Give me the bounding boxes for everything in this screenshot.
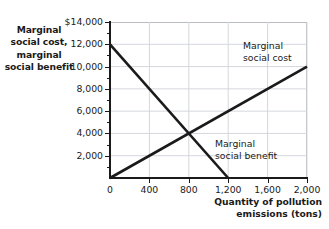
y-tick-minor — [107, 33, 110, 34]
y-tick-minor — [107, 78, 110, 79]
x-axis-title-line-1: Quantity of pollution — [150, 196, 322, 208]
series-line-marginal-social-benefit — [110, 44, 228, 178]
y-tick-label: $14,000 — [65, 17, 103, 26]
x-tick-label: 1,200 — [215, 185, 242, 194]
plot-area: 2,0004,0006,0008,00010,00012,000$14,000 … — [110, 22, 307, 178]
x-tick-label: 0 — [107, 185, 113, 194]
y-tick — [105, 67, 110, 68]
y-tick-minor — [107, 122, 110, 123]
x-tick-label: 2,000 — [294, 185, 321, 194]
y-tick-label: 2,000 — [76, 151, 103, 160]
y-tick — [105, 156, 110, 157]
y-tick-label: 4,000 — [76, 129, 103, 138]
y-axis-title-line-4: social benefit — [0, 61, 78, 73]
x-tick — [228, 178, 229, 183]
y-tick-minor — [107, 55, 110, 56]
y-axis-title: Marginal social cost, marginal social be… — [0, 24, 78, 74]
x-tick — [149, 178, 150, 183]
economics-pollution-chart: Marginal social cost, marginal social be… — [0, 0, 329, 229]
y-tick-label: 10,000 — [70, 62, 103, 71]
y-axis-title-line-2: social cost, — [0, 36, 78, 48]
msb-label-line-2: social benefit — [215, 150, 277, 162]
y-tick — [105, 111, 110, 112]
msc-label-line-1: Marginal — [243, 40, 292, 52]
marginal-social-benefit-label: Marginal social benefit — [215, 138, 277, 161]
y-tick — [105, 133, 110, 134]
x-tick-label: 400 — [141, 185, 159, 194]
x-axis-spine — [109, 177, 308, 179]
x-axis-title-line-2: emissions (tons) — [150, 208, 322, 220]
y-tick-label: 12,000 — [70, 40, 103, 49]
y-tick-label: 8,000 — [76, 84, 103, 93]
msc-label-line-2: social cost — [243, 52, 292, 64]
x-axis-title: Quantity of pollution emissions (tons) — [150, 196, 322, 220]
marginal-social-cost-label: Marginal social cost — [243, 40, 292, 63]
y-axis-title-line-3: marginal — [0, 49, 78, 61]
x-tick — [307, 178, 308, 183]
y-tick — [105, 22, 110, 23]
series-line-marginal-social-cost — [110, 67, 307, 178]
y-tick — [105, 89, 110, 90]
y-tick-minor — [107, 167, 110, 168]
x-tick — [189, 178, 190, 183]
y-tick-minor — [107, 145, 110, 146]
msb-label-line-1: Marginal — [215, 138, 277, 150]
x-tick-label: 800 — [180, 185, 198, 194]
x-tick-label: 1,600 — [254, 185, 281, 194]
y-tick-label: 6,000 — [76, 106, 103, 115]
x-tick — [268, 178, 269, 183]
y-tick-minor — [107, 100, 110, 101]
y-tick — [105, 44, 110, 45]
